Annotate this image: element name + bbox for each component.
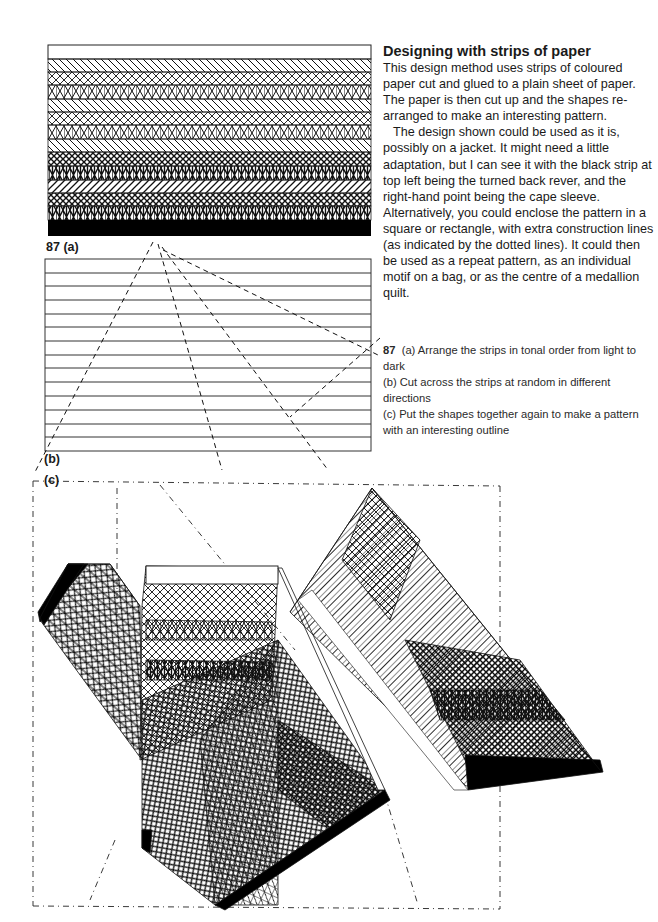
figure-b-strips <box>45 259 371 451</box>
figure-artwork <box>0 0 658 922</box>
figure-c-pattern <box>38 488 603 910</box>
figure-a-strips <box>48 45 371 236</box>
